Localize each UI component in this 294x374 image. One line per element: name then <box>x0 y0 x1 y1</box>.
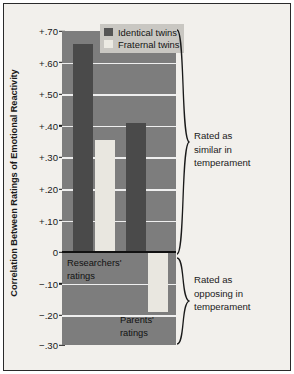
y-axis-ticks: +.70 +.60 +.50 +.40 +.30 +.20 +.10 0 −.1… <box>24 0 58 374</box>
y-tick-label: +.70 <box>39 26 58 37</box>
y-tick-label: −.10 <box>39 278 58 289</box>
y-tick-0.50: +.50 <box>24 89 58 100</box>
y-tick--0.20: −.20 <box>24 310 58 321</box>
y-tick-label: +.60 <box>39 57 58 68</box>
y-tick-label: +.40 <box>39 120 58 131</box>
y-tick-label: +.20 <box>39 184 58 195</box>
annotation-opposing-line2: opposing in <box>194 287 243 301</box>
group-label-parents-line2: ratings <box>120 327 148 339</box>
y-tick-0.10: +.10 <box>24 215 58 226</box>
y-tick-label: +.50 <box>39 89 58 100</box>
y-tick--0.30: −.30 <box>24 340 58 351</box>
legend-label-identical: Identical twins <box>118 27 177 38</box>
annotation-similar-line1: Rated as <box>194 129 232 143</box>
group-label-parents-line1: Parents' <box>120 314 154 326</box>
y-tick-label: +.30 <box>39 152 58 163</box>
annotation-opposing-line1: Rated as <box>194 273 232 287</box>
y-tick-0: 0 <box>24 247 58 258</box>
y-tick-0.20: +.20 <box>24 184 58 195</box>
annotation-similar-line2: similar in <box>194 143 232 157</box>
legend-label-fraternal: Fraternal twins <box>118 39 179 50</box>
bar-researchers-fraternal-twins <box>95 140 115 253</box>
bar-parents-fraternal-twins <box>148 252 168 312</box>
y-tick-0.70: +.70 <box>24 26 58 37</box>
brace-opposing-icon <box>176 256 190 346</box>
y-tick-label: 0 <box>53 247 58 258</box>
y-tick--0.10: −.10 <box>24 278 58 289</box>
y-tick-label: −.30 <box>39 340 58 351</box>
legend-swatch-icon-fraternal <box>104 40 113 48</box>
chart-legend: Identical twins Fraternal twins <box>100 24 184 53</box>
gridline--0.20 <box>62 315 176 317</box>
y-tick-0.60: +.60 <box>24 57 58 68</box>
legend-swatch-icon-identical <box>104 28 113 36</box>
group-label-researchers-line2: ratings <box>67 270 95 282</box>
y-axis-title: Correlation Between Ratings of Emotional… <box>9 23 19 343</box>
y-tick-0.40: +.40 <box>24 120 58 131</box>
legend-item-identical-twins: Identical twins <box>104 26 179 38</box>
y-tick-0.30: +.30 <box>24 152 58 163</box>
plot-area: Researchers' ratings Parents' ratings <box>62 31 176 345</box>
group-label-researchers-line1: Researchers' <box>67 257 121 269</box>
chart-figure: Correlation Between Ratings of Emotional… <box>0 0 294 374</box>
y-tick-label: −.20 <box>39 310 58 321</box>
zero-line <box>62 251 176 253</box>
brace-similar-icon <box>176 28 190 256</box>
annotation-opposing-line3: temperament <box>194 300 251 314</box>
legend-item-fraternal-twins: Fraternal twins <box>104 38 179 50</box>
y-tick-label: +.10 <box>39 215 58 226</box>
bar-researchers-identical-twins <box>73 44 93 253</box>
annotation-similar-line3: temperament <box>194 156 251 170</box>
bar-parents-identical-twins <box>126 123 146 253</box>
